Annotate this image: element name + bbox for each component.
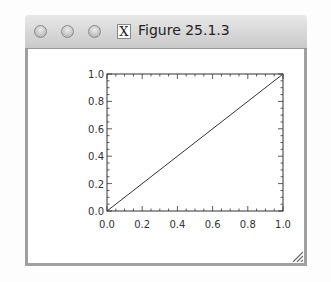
resize-grip-icon[interactable] — [291, 250, 303, 262]
zoom-button[interactable] — [88, 25, 101, 38]
y-tick-label: 0.6 — [88, 124, 104, 135]
y-tick-label: 0.0 — [88, 206, 104, 217]
x11-icon: X — [117, 24, 131, 39]
data-line — [107, 74, 283, 211]
y-tick-label: 0.4 — [88, 151, 104, 162]
y-tick-label: 1.0 — [88, 69, 104, 80]
minimize-button[interactable] — [61, 25, 74, 38]
figure-window: X Figure 25.1.3 0.00.20.40.60.81.00.00.2… — [25, 15, 307, 266]
x-tick-label: 0.0 — [99, 219, 115, 230]
y-tick-label: 0.2 — [88, 179, 104, 190]
title-bar[interactable]: X Figure 25.1.3 — [25, 15, 307, 49]
y-tick-label: 0.8 — [88, 96, 104, 107]
plot-area: 0.00.20.40.60.81.00.00.20.40.60.81.0 — [25, 49, 307, 266]
x-tick-label: 0.4 — [169, 219, 185, 230]
close-button[interactable] — [34, 25, 47, 38]
x-tick-label: 0.2 — [134, 219, 150, 230]
line-chart: 0.00.20.40.60.81.00.00.20.40.60.81.0 — [28, 49, 304, 263]
x-tick-label: 0.8 — [240, 219, 256, 230]
x-tick-label: 1.0 — [275, 219, 291, 230]
x-tick-label: 0.6 — [205, 219, 221, 230]
window-title: Figure 25.1.3 — [138, 22, 230, 38]
